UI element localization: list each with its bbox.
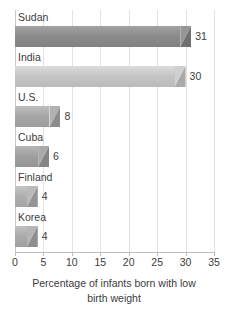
bar-body (15, 226, 27, 247)
bar-body (15, 146, 38, 167)
bar-group: Finland4 (15, 171, 214, 211)
bar-rect (15, 106, 60, 127)
bar-category-label: Cuba (18, 131, 43, 144)
bar-end-cap (27, 186, 38, 207)
x-axis-line (15, 252, 214, 253)
bar-value-label: 4 (42, 189, 48, 203)
bar-group: Korea4 (15, 211, 214, 251)
x-tick-label: 20 (123, 256, 135, 269)
bar (15, 106, 60, 127)
bar-category-label: Korea (18, 211, 46, 224)
bar-category-label: Sudan (18, 11, 48, 24)
bar-end-cap (49, 106, 60, 127)
bar-category-label: India (18, 51, 41, 64)
bar-body (15, 106, 49, 127)
bar-body (15, 26, 180, 47)
bar-value-label: 31 (195, 29, 207, 43)
bar-body (15, 66, 175, 87)
gridline-35 (214, 10, 215, 252)
x-tick-label: 15 (94, 256, 106, 269)
bar-rect (15, 66, 186, 87)
bar (15, 146, 49, 167)
bar (15, 226, 38, 247)
bar-value-label: 30 (190, 69, 202, 83)
bar-end-cap (38, 146, 49, 167)
x-tick-label: 0 (12, 256, 18, 269)
bar-end-cap (175, 66, 186, 87)
x-tick-label: 25 (151, 256, 163, 269)
bar-value-label: 6 (53, 149, 59, 163)
bar (15, 186, 38, 207)
bar-rect (15, 186, 38, 207)
bar-category-label: Finland (18, 171, 52, 184)
x-tick-label: 5 (41, 256, 47, 269)
bar-body (15, 186, 27, 207)
bar-group: Cuba6 (15, 131, 214, 171)
bar-end-cap (27, 226, 38, 247)
bar-rect (15, 146, 49, 167)
x-axis-label-line: birth weight (0, 291, 228, 306)
x-tick-label: 35 (208, 256, 220, 269)
x-tick-label: 10 (66, 256, 78, 269)
x-axis-label-line: Percentage of infants born with low (0, 276, 228, 291)
plot-area: Sudan31India30U.S.8Cuba6Finland4Korea4 (15, 10, 214, 252)
bar (15, 26, 191, 47)
bar-group: Sudan31 (15, 11, 214, 51)
bar-value-label: 8 (64, 109, 70, 123)
x-tick-label: 30 (180, 256, 192, 269)
bar-value-label: 4 (42, 229, 48, 243)
bar-end-cap (180, 26, 191, 47)
x-axis-label: Percentage of infants born with lowbirth… (0, 276, 228, 306)
bar-rect (15, 226, 38, 247)
bar (15, 66, 186, 87)
bar-rect (15, 26, 191, 47)
bar-chart: Sudan31India30U.S.8Cuba6Finland4Korea4 0… (0, 0, 228, 315)
bar-category-label: U.S. (18, 91, 38, 104)
bar-group: U.S.8 (15, 91, 214, 131)
bar-group: India30 (15, 51, 214, 91)
